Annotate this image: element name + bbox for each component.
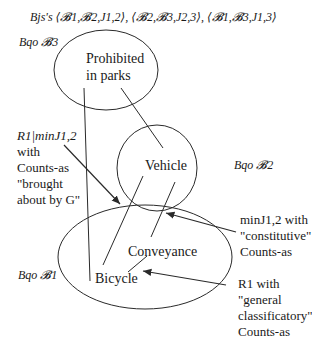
node-prohibited-line2: in parks	[86, 67, 131, 84]
annotation-line: "brought	[17, 176, 80, 192]
annotation-line: Counts-as	[240, 244, 311, 260]
diagram-title: Bjs's ⟨𝓑1,𝓑2,J1,2⟩, ⟨𝓑2,𝓑3,J2,3⟩, ⟨𝓑1,𝓑3…	[30, 10, 277, 25]
annotation-line: "constitutive"	[240, 228, 311, 244]
arrow-constitutive	[166, 213, 236, 232]
label-bqo-b1: Bqo 𝓑1	[18, 268, 57, 283]
arrow-general-classificatory	[143, 271, 226, 285]
label-bqo-b3: Bqo 𝓑3	[19, 35, 58, 50]
annotation-general-classificatory: R1 with "general classificatory" Counts-…	[238, 276, 312, 340]
annotation-line: with	[17, 144, 80, 160]
node-conveyance: Conveyance	[128, 243, 197, 260]
annotation-line: R1|minJ1,2	[17, 128, 80, 144]
annotation-constitutive: minJ1,2 with "constitutive" Counts-as	[240, 212, 311, 260]
line-bicycle-prohibited	[84, 88, 90, 281]
annotation-line: R1 with	[238, 276, 312, 292]
annotation-line: Counts-as	[17, 160, 80, 176]
node-vehicle: Vehicle	[145, 157, 187, 174]
annotation-line: minJ1,2 with	[240, 212, 311, 228]
node-bicycle: Bicycle	[95, 270, 138, 287]
annotation-brought-about: R1|minJ1,2 with Counts-as "brought about…	[17, 128, 80, 208]
annotation-line: Counts-as	[238, 324, 312, 340]
annotation-line: "general	[238, 292, 312, 308]
annotation-line: about by G"	[17, 192, 80, 208]
node-prohibited-line1: Prohibited	[86, 50, 144, 67]
line-conveyance-vehicle	[151, 182, 175, 237]
annotation-line: classificatory"	[238, 308, 312, 324]
label-bqo-b2: Bqo 𝓑2	[234, 158, 273, 173]
